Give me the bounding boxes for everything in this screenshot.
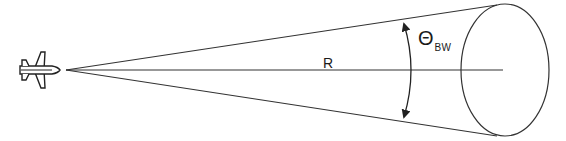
beamwidth-symbol: Θ <box>418 27 434 49</box>
beamwidth-subscript: BW <box>435 42 452 53</box>
airplane-icon <box>20 52 60 88</box>
cone-lower-edge <box>66 70 497 136</box>
range-label: R <box>323 56 333 70</box>
beamwidth-label: ΘBW <box>418 28 451 48</box>
diagram-canvas <box>0 0 566 141</box>
radar-beam-diagram: R ΘBW <box>0 0 566 141</box>
